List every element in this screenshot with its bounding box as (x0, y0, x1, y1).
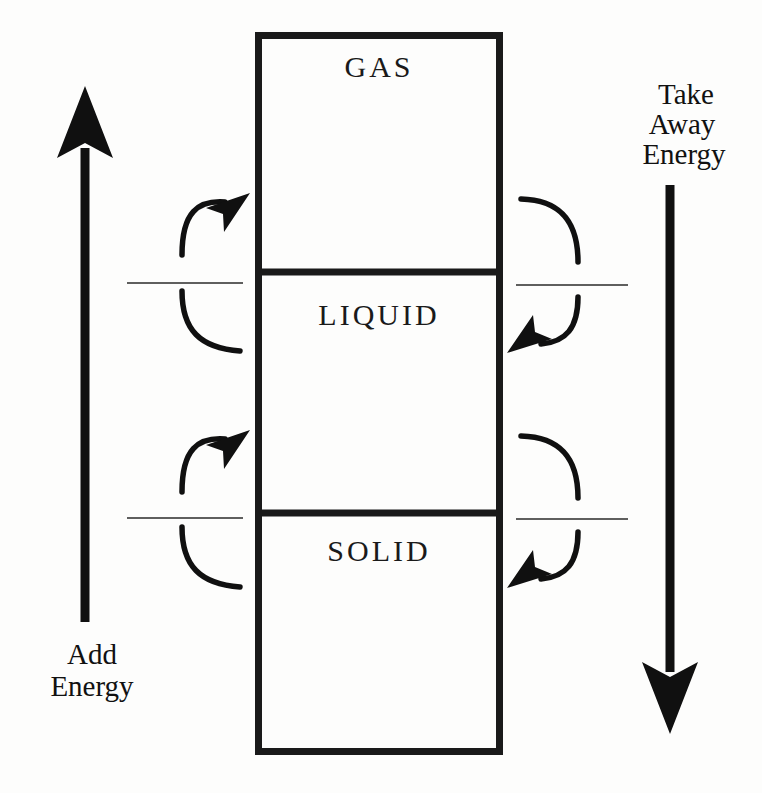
curve-melt-lower-left-arc-bottom (182, 527, 240, 587)
take-away-energy-label-line2: Away (649, 108, 716, 140)
add-energy-label-line1: Add (67, 638, 117, 670)
take-away-energy-arrowhead (642, 662, 698, 734)
state-label-solid: SOLID (327, 534, 430, 567)
curve-freeze-lower-right-arrowhead (507, 550, 552, 588)
curve-melt-lower-left (182, 430, 250, 587)
curve-freeze-lower-right (507, 436, 578, 588)
state-label-gas: GAS (344, 50, 413, 83)
add-energy-arrowhead (57, 86, 113, 158)
curve-condense-upper-right (507, 199, 578, 353)
curve-freeze-lower-right-arc-top (521, 436, 578, 498)
phase-column-box (259, 36, 500, 752)
state-label-liquid: LIQUID (318, 298, 439, 331)
curve-melt-upper-left-arc-bottom (182, 291, 240, 351)
curve-melt-lower-left-arrowhead (206, 430, 250, 469)
diagram-root: GAS LIQUID SOLID Add Energy Take Away En… (0, 0, 762, 793)
add-energy-arrow (57, 86, 113, 622)
curve-melt-upper-left-arrowhead (206, 193, 250, 232)
take-away-energy-label-line1: Take (658, 78, 714, 110)
take-away-energy-arrow (642, 185, 698, 734)
states-of-matter-diagram: GAS LIQUID SOLID Add Energy Take Away En… (0, 0, 762, 793)
phase-column-outline (259, 36, 500, 752)
curve-melt-upper-left (182, 193, 250, 351)
add-energy-label-line2: Energy (50, 670, 134, 702)
take-away-energy-label-line3: Energy (642, 138, 726, 170)
curve-condense-upper-right-arc-top (521, 199, 578, 262)
curve-condense-upper-right-arrowhead (507, 315, 552, 353)
